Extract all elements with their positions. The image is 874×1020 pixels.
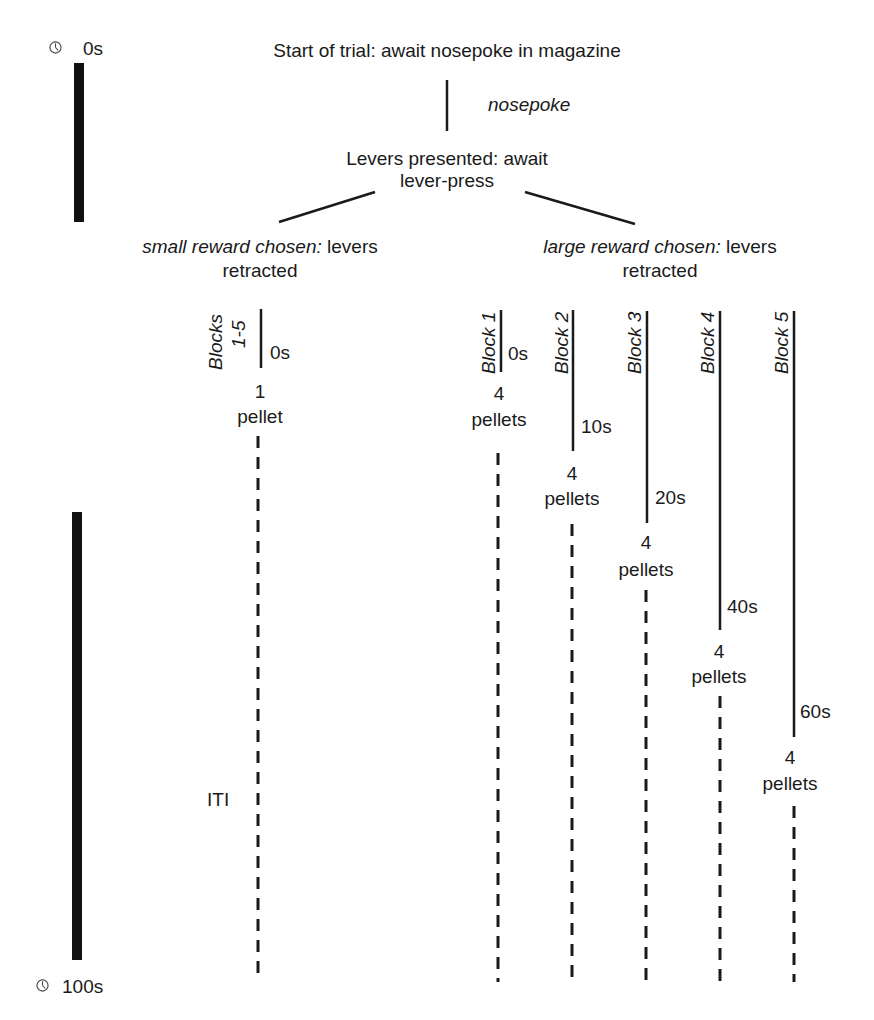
- small-reward-node: small reward chosen: levers: [142, 236, 378, 258]
- timeline-start-label: 0s: [83, 38, 103, 60]
- iti-label: ITI: [207, 789, 229, 811]
- small-reward-unit: pellet: [237, 406, 282, 428]
- block3-reward-count: 4: [641, 532, 652, 554]
- large-reward-node: large reward chosen: levers: [543, 236, 776, 258]
- large-reward-chosen: large reward chosen:: [543, 236, 720, 257]
- small-reward-rest: levers: [322, 236, 378, 257]
- block5-label: Block 5: [771, 312, 793, 374]
- block4-reward-count: 4: [714, 641, 725, 663]
- block4-reward-unit: pellets: [692, 666, 747, 688]
- large-reward-retracted: retracted: [623, 260, 698, 282]
- block1-reward-unit: pellets: [472, 409, 527, 431]
- block2-delay: 10s: [581, 416, 612, 438]
- small-reward-retracted: retracted: [223, 260, 298, 282]
- block5-reward-count: 4: [785, 747, 796, 769]
- trial-start-node: Start of trial: await nosepoke in magazi…: [273, 40, 620, 62]
- clock-icon: [36, 979, 49, 992]
- small-delay: 0s: [270, 342, 290, 364]
- block5-reward-unit: pellets: [763, 773, 818, 795]
- timeline-end-label: 100s: [62, 976, 103, 998]
- levers-presented-line2: lever-press: [400, 170, 494, 192]
- branch-right-connector: [525, 192, 635, 224]
- block3-reward-unit: pellets: [619, 559, 674, 581]
- block1-delay: 0s: [508, 343, 528, 365]
- nosepoke-label: nosepoke: [488, 94, 570, 116]
- small-block-label: Blocks: [205, 314, 227, 370]
- small-reward-chosen: small reward chosen:: [142, 236, 322, 257]
- small-block-range: 1-5: [228, 321, 250, 348]
- block4-label: Block 4: [697, 312, 719, 374]
- block1-label: Block 1: [478, 312, 500, 374]
- block3-delay: 20s: [655, 487, 686, 509]
- branch-left-connector: [279, 192, 375, 222]
- block5-delay: 60s: [800, 701, 831, 723]
- levers-presented-line1: Levers presented: await: [346, 148, 548, 170]
- block2-label: Block 2: [551, 312, 573, 374]
- block2-reward-unit: pellets: [545, 488, 600, 510]
- block4-delay: 40s: [727, 596, 758, 618]
- trial-diagram: 0s 100s Start of trial: await nosepoke i…: [0, 0, 874, 1020]
- timeline-bar-bottom: [72, 512, 82, 960]
- block1-reward-count: 4: [494, 383, 505, 405]
- small-reward-count: 1: [255, 381, 266, 403]
- large-reward-rest: levers: [721, 236, 777, 257]
- timeline-bar-top: [74, 63, 84, 222]
- block3-label: Block 3: [624, 312, 646, 374]
- clock-icon: [49, 41, 62, 54]
- block2-reward-count: 4: [567, 463, 578, 485]
